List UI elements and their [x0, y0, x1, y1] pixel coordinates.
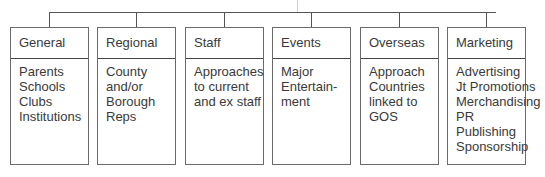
connector-events	[311, 12, 312, 27]
category-item: linked to	[369, 94, 438, 109]
category-item: GOS	[369, 109, 438, 124]
category-title: General	[11, 28, 88, 59]
category-item: Clubs	[19, 94, 88, 109]
connector-general	[49, 12, 50, 27]
category-box-general: General Parents Schools Clubs Institutio…	[10, 27, 89, 165]
category-item: Schools	[19, 79, 88, 94]
category-item: Institutions	[19, 109, 88, 124]
horizontal-connector-line	[49, 12, 496, 13]
category-item: Jt Promotions	[456, 79, 525, 94]
category-item: and/or	[106, 79, 175, 94]
category-item: Borough	[106, 94, 175, 109]
category-item: Major	[281, 64, 350, 79]
category-item: Approaches	[194, 64, 263, 79]
category-box-regional: Regional County and/or Borough Reps	[97, 27, 176, 165]
category-item: to current	[194, 79, 263, 94]
category-title: Marketing	[448, 28, 525, 59]
category-title: Events	[273, 28, 350, 59]
category-item: Approach	[369, 64, 438, 79]
category-items: Parents Schools Clubs Institutions	[11, 59, 88, 124]
category-item: Entertain-	[281, 79, 350, 94]
org-diagram: General Parents Schools Clubs Institutio…	[0, 0, 545, 177]
category-items: Approaches to current and ex staff	[186, 59, 263, 109]
connector-marketing	[486, 12, 487, 27]
connector-regional	[136, 12, 137, 27]
category-item: Advertising	[456, 64, 525, 79]
category-box-staff: Staff Approaches to current and ex staff	[185, 27, 264, 165]
category-item: Merchandising	[456, 94, 525, 109]
category-title: Overseas	[361, 28, 438, 59]
category-items: Advertising Jt Promotions Merchandising …	[448, 59, 525, 154]
category-box-marketing: Marketing Advertising Jt Promotions Merc…	[447, 27, 526, 165]
category-items: County and/or Borough Reps	[98, 59, 175, 124]
category-item: PR	[456, 109, 525, 124]
category-item: Countries	[369, 79, 438, 94]
category-title: Regional	[98, 28, 175, 59]
connector-staff	[224, 12, 225, 27]
category-items: Major Entertain- ment	[273, 59, 350, 109]
category-title: Staff	[186, 28, 263, 59]
category-item: Publishing	[456, 124, 525, 139]
parent-connector-stem	[297, 0, 298, 12]
category-box-overseas: Overseas Approach Countries linked to GO…	[360, 27, 439, 165]
category-items: Approach Countries linked to GOS	[361, 59, 438, 124]
category-item: County	[106, 64, 175, 79]
category-item: and ex staff	[194, 94, 263, 109]
category-item: Sponsorship	[456, 139, 525, 154]
category-box-events: Events Major Entertain- ment	[272, 27, 351, 165]
category-item: ment	[281, 94, 350, 109]
connector-overseas	[399, 12, 400, 27]
category-item: Parents	[19, 64, 88, 79]
category-item: Reps	[106, 109, 175, 124]
